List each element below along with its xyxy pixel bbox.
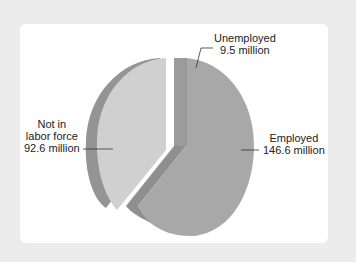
label-employed: Employed 146.6 million <box>263 132 325 156</box>
label-employed-value: 146.6 million <box>263 144 325 156</box>
label-employed-name: Employed <box>263 132 325 144</box>
label-unemployed: Unemployed 9.5 million <box>214 32 276 56</box>
label-not-in-labor-force-line2: labor force <box>24 130 80 142</box>
label-unemployed-value: 9.5 million <box>214 44 276 56</box>
label-not-in-labor-force: Not in labor force 92.6 million <box>24 118 80 154</box>
label-not-in-labor-force-line1: Not in <box>24 118 80 130</box>
label-not-in-labor-force-value: 92.6 million <box>24 142 80 154</box>
slice-unemployed <box>174 58 186 146</box>
label-unemployed-name: Unemployed <box>214 32 276 44</box>
